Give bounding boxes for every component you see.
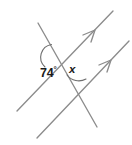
upper-parallel-line — [17, 11, 113, 111]
angle-arc-74 — [41, 45, 52, 68]
angle-74-value: 74 — [40, 66, 54, 80]
geometry-canvas — [0, 0, 132, 145]
geometry-figure: 74° x — [0, 0, 132, 145]
lower-parallel-line — [37, 41, 129, 138]
degree-symbol-icon: ° — [54, 65, 57, 74]
angle-label-74-degrees: 74° — [40, 66, 57, 80]
angle-label-x: x — [69, 64, 75, 76]
